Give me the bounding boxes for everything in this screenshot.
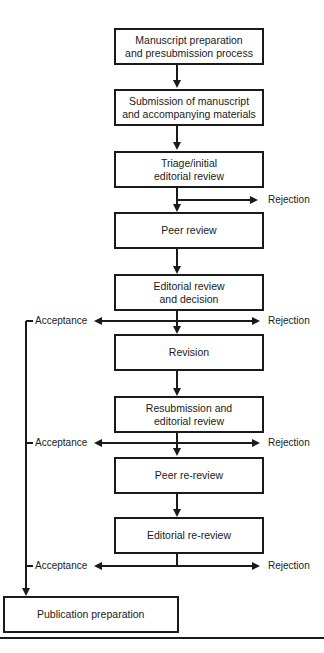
acceptance-label: Acceptance xyxy=(35,315,87,327)
step-text: Revision xyxy=(169,346,209,359)
step-text: Peer review xyxy=(161,224,216,237)
step-text: Triage/initial xyxy=(161,157,217,169)
step-triage: Triage/initialeditorial review xyxy=(114,151,264,188)
acceptance-label: Acceptance xyxy=(35,437,87,449)
step-editorial-re-review: Editorial re-review xyxy=(114,517,264,554)
step-peer-review: Peer review xyxy=(114,212,264,249)
step-text: Submission of manuscript xyxy=(129,95,249,107)
step-resubmission: Resubmission andeditorial review xyxy=(114,396,264,433)
step-text: and presubmission process xyxy=(125,47,253,59)
acceptance-label: Acceptance xyxy=(35,560,87,572)
rejection-label: Rejection xyxy=(268,560,310,572)
step-text: Manuscript preparation xyxy=(135,34,242,46)
bottom-rule xyxy=(0,637,324,639)
step-editorial-decision: Editorial reviewand decision xyxy=(114,274,264,311)
step-submission: Submission of manuscriptand accompanying… xyxy=(114,89,264,126)
step-text: and decision xyxy=(160,293,219,305)
step-text: Publication preparation xyxy=(37,608,144,621)
step-text: editorial review xyxy=(154,170,224,182)
step-manuscript-preparation: Manuscript preparationand presubmission … xyxy=(114,28,264,65)
rejection-label: Rejection xyxy=(268,194,310,206)
step-text: editorial review xyxy=(154,415,224,427)
step-publication-preparation: Publication preparation xyxy=(3,596,179,633)
rejection-label: Rejection xyxy=(268,437,310,449)
rejection-label: Rejection xyxy=(268,315,310,327)
step-text: Editorial review xyxy=(153,280,224,292)
step-text: and accompanying materials xyxy=(122,108,256,120)
step-text: Peer re-review xyxy=(155,469,223,482)
step-peer-re-review: Peer re-review xyxy=(114,457,264,494)
step-revision: Revision xyxy=(114,334,264,371)
step-text: Resubmission and xyxy=(146,402,232,414)
step-text: Editorial re-review xyxy=(147,529,231,542)
